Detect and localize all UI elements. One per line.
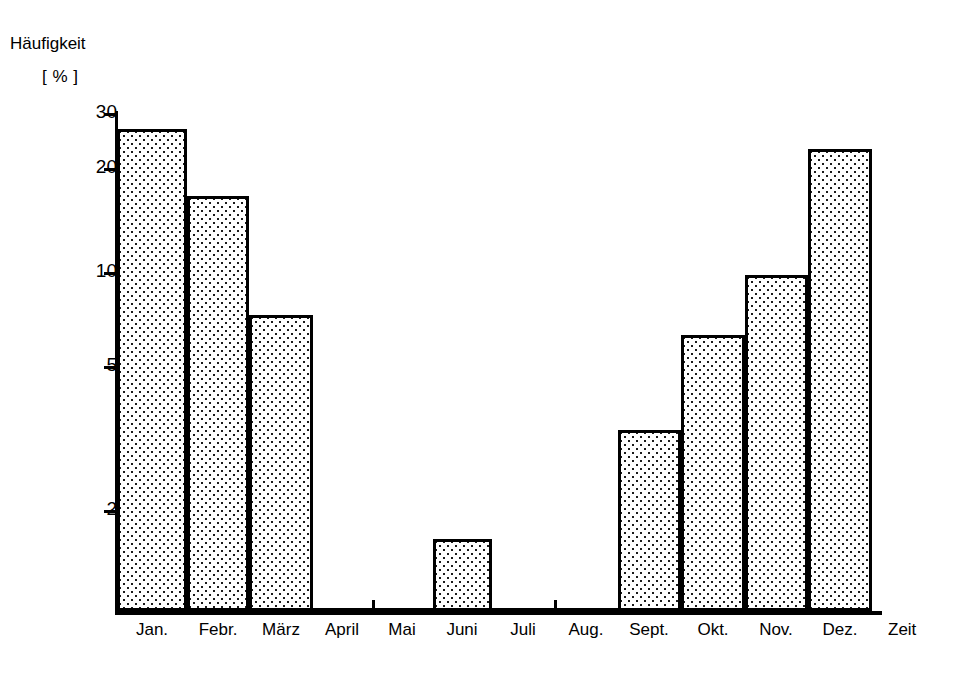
x-axis-title: Zeit xyxy=(888,620,916,640)
bar-sept xyxy=(618,430,681,611)
bar-juli xyxy=(492,608,554,611)
bar-febr xyxy=(187,196,249,611)
bar-nov xyxy=(745,275,808,611)
bar-okt xyxy=(681,335,745,611)
y-axis-tick-label: 2 xyxy=(73,499,117,518)
bar-aug xyxy=(554,608,618,611)
y-axis-tick-label: 30 xyxy=(73,102,117,121)
y-axis-tick-mark xyxy=(104,510,117,513)
y-axis-tick-mark xyxy=(104,113,117,116)
y-axis-title-line2: [ % ] xyxy=(42,67,79,87)
bar-april xyxy=(313,608,372,611)
bar-mai xyxy=(372,608,433,611)
x-axis-label-dez: Dez. xyxy=(800,620,880,640)
y-axis-tick-label: 20 xyxy=(73,157,117,176)
y-axis-title-line1: Häufigkeit xyxy=(10,34,86,54)
bar-dez xyxy=(808,149,872,611)
y-axis-tick-mark xyxy=(104,272,117,275)
y-axis-tick-mark xyxy=(104,366,117,369)
bar-jan xyxy=(117,129,187,611)
y-axis-tick-label: 5 xyxy=(73,355,117,374)
chart-container: Häufigkeit [ % ] 30201052 Jan.Febr.MärzA… xyxy=(0,0,956,674)
x-axis-line xyxy=(115,611,882,615)
bar-märz xyxy=(249,315,313,611)
bar-juni xyxy=(433,539,492,611)
y-axis-tick-mark xyxy=(104,168,117,171)
y-axis-tick-label: 10 xyxy=(73,261,117,280)
